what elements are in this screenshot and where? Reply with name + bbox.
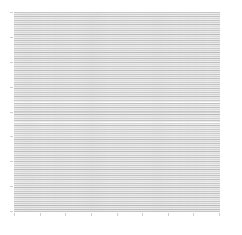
x-axis-tick <box>14 213 15 216</box>
y-axis-tick <box>10 62 13 63</box>
y-axis-tick <box>10 37 13 38</box>
x-axis-tick <box>193 213 194 216</box>
x-axis-tick <box>91 213 92 216</box>
x-axis-tick <box>40 213 41 216</box>
x-axis-label <box>14 224 220 233</box>
y-axis-tick <box>10 211 13 212</box>
y-axis-tick <box>10 161 13 162</box>
y-axis-tick <box>10 87 13 88</box>
x-axis-tick <box>65 213 66 216</box>
x-axis-tick <box>219 213 220 216</box>
y-axis-tick <box>10 12 13 13</box>
y-axis-tick <box>10 112 13 113</box>
page-title <box>14 0 220 10</box>
x-axis-tick <box>142 213 143 216</box>
x-axis-tick <box>117 213 118 216</box>
x-axis-tick <box>168 213 169 216</box>
y-axis-tick <box>10 136 13 137</box>
y-axis-tick <box>10 186 13 187</box>
plot-area <box>14 12 220 212</box>
figure-canvas <box>0 0 242 235</box>
horizontal-line-series-canvas <box>14 12 220 212</box>
